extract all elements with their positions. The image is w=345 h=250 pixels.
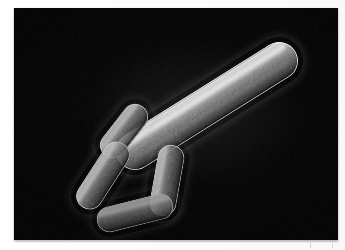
plate-drop-shadow	[16, 241, 340, 243]
micrograph-plate	[14, 8, 338, 240]
cell-edge-rim	[94, 191, 176, 235]
cell-body	[94, 191, 176, 235]
tick-right	[332, 243, 333, 248]
document-page	[0, 0, 345, 250]
bacterium-rod-bottom	[94, 191, 176, 235]
tick-left	[310, 243, 311, 248]
